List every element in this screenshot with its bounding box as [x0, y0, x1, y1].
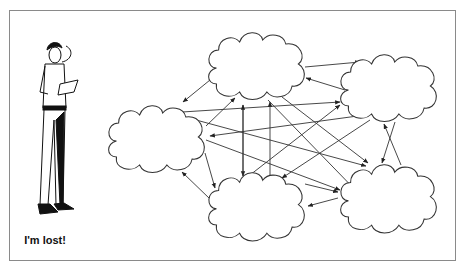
caption-text: I'm lost!: [14, 234, 76, 246]
network-diagram: [0, 0, 467, 268]
confused-man-icon: [38, 43, 78, 214]
cloud-top: [209, 33, 305, 100]
cloud-bottom: [209, 173, 305, 241]
cloud-left: [109, 106, 205, 173]
cloud-right-top: [341, 55, 437, 122]
cloud-bottom-right: [341, 165, 437, 233]
